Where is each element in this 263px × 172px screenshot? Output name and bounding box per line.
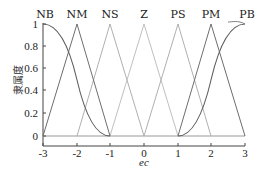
curve-ps [144, 24, 211, 136]
y-tick-label: 0.2 [24, 107, 38, 119]
membership-function-chart: 0 0.2 0.4 0.6 0.8 1 -3 -2 -1 0 1 2 3 ec … [0, 0, 263, 172]
series-label-nb: NB [36, 8, 54, 21]
pb-leader-line [228, 22, 245, 25]
x-tick-label: -3 [38, 147, 48, 159]
curve-ns [77, 24, 144, 136]
x-tick-label: 3 [242, 147, 248, 159]
y-tick-label: 0 [33, 130, 39, 142]
x-tick-label: 2 [208, 147, 214, 159]
x-axis-label: ec [139, 156, 149, 168]
series-label-ps: PS [171, 8, 186, 21]
curve-z [110, 24, 178, 136]
curve-nb [43, 24, 110, 136]
x-tick-label: -1 [105, 147, 114, 159]
x-tick-label: -2 [72, 147, 81, 159]
y-tick-label: 0.8 [24, 40, 38, 52]
series-label-nm: NM [67, 8, 88, 21]
y-axis-label: 隶属度 [12, 65, 24, 95]
curve-pb [178, 24, 245, 136]
series-label-pb: PB [239, 8, 255, 21]
series-label-ns: NS [101, 8, 118, 21]
series-label-z: Z [140, 8, 148, 21]
x-tick-label: 1 [175, 147, 181, 159]
y-tick-label: 0.4 [24, 84, 38, 96]
series-label-pm: PM [202, 8, 221, 21]
y-tick-label: 0.6 [24, 62, 38, 74]
